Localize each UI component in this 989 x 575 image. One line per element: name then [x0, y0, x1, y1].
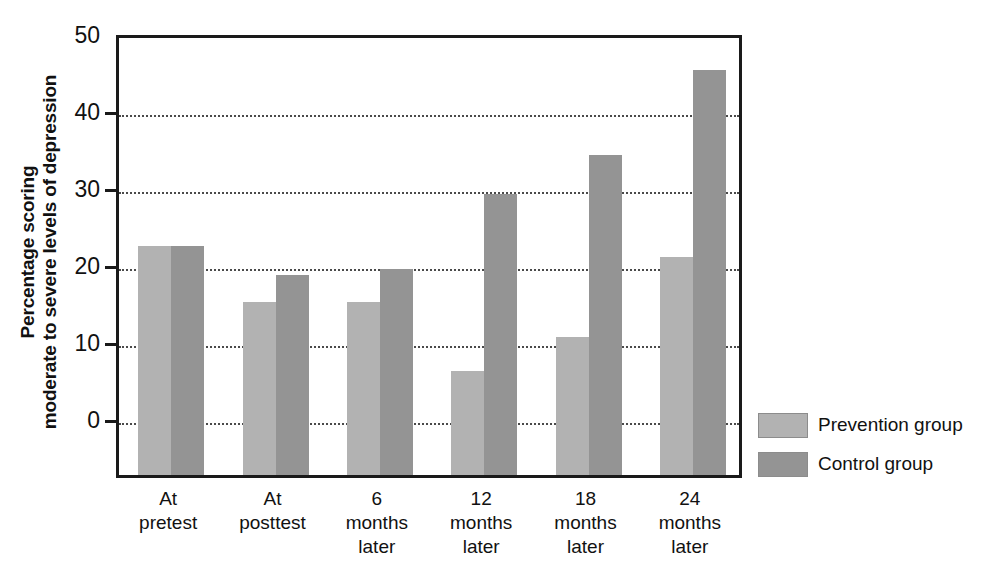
bar-control-3 [484, 194, 517, 475]
x-tick-label-1-line-1: posttest [220, 511, 324, 535]
y-tick-label-50: 50 [56, 22, 100, 49]
legend-label-prevention: Prevention group [818, 414, 963, 436]
bar-prevention-1 [243, 302, 276, 475]
x-tick-label-4-line-2: later [533, 535, 637, 559]
y-tick-mark-0 [105, 420, 116, 423]
y-tick-label-0: 0 [56, 407, 100, 434]
legend-label-control: Control group [818, 453, 933, 475]
x-tick-label-0-line-1: pretest [116, 511, 220, 535]
bar-control-5 [693, 70, 726, 475]
x-tick-label-2-line-2: later [325, 535, 429, 559]
x-tick-label-3-line-1: months [429, 511, 533, 535]
y-tick-label-30: 30 [56, 176, 100, 203]
x-tick-label-0-line-0: At [116, 487, 220, 511]
bar-prevention-2 [347, 302, 380, 475]
x-tick-label-2-line-0: 6 [325, 487, 429, 511]
bar-chart-figure: Percentage scoring moderate to severe le… [0, 0, 989, 575]
plot-area [116, 35, 742, 478]
chart-legend: Prevention groupControl group [758, 412, 986, 490]
x-tick-label-2-line-1: months [325, 511, 429, 535]
bar-control-4 [589, 155, 622, 475]
gridline-10 [119, 346, 739, 348]
y-tick-label-40: 40 [56, 99, 100, 126]
bar-prevention-5 [660, 257, 693, 475]
y-tick-label-20: 20 [56, 253, 100, 280]
x-tick-label-5-line-1: months [638, 511, 742, 535]
bar-control-2 [380, 269, 413, 475]
bar-control-0 [171, 246, 204, 475]
y-tick-mark-10 [105, 343, 116, 346]
legend-item-control[interactable]: Control group [758, 451, 986, 477]
x-tick-label-1: Atposttest [220, 487, 324, 535]
y-tick-mark-20 [105, 266, 116, 269]
x-tick-label-5-line-0: 24 [638, 487, 742, 511]
bar-prevention-3 [451, 371, 484, 475]
bar-prevention-0 [138, 246, 171, 475]
legend-item-prevention[interactable]: Prevention group [758, 412, 986, 438]
legend-swatch-prevention [758, 413, 808, 438]
bar-control-1 [276, 275, 309, 475]
x-axis-tick-labels: AtpretestAtposttest6monthslater12monthsl… [116, 487, 742, 573]
gridline-20 [119, 269, 739, 271]
gridline-40 [119, 115, 739, 117]
y-tick-label-10: 10 [56, 330, 100, 357]
x-tick-label-0: Atpretest [116, 487, 220, 535]
gridline-0 [119, 423, 739, 425]
y-tick-mark-40 [105, 112, 116, 115]
x-tick-label-1-line-0: At [220, 487, 324, 511]
plot-inner [119, 38, 739, 475]
x-tick-label-5-line-2: later [638, 535, 742, 559]
x-tick-label-5: 24monthslater [638, 487, 742, 558]
x-tick-label-4: 18monthslater [533, 487, 637, 558]
bar-prevention-4 [556, 337, 589, 475]
x-tick-label-3: 12monthslater [429, 487, 533, 558]
x-tick-label-4-line-0: 18 [533, 487, 637, 511]
y-tick-mark-30 [105, 189, 116, 192]
y-axis-ticks: 01020304050 [0, 0, 100, 500]
legend-swatch-control [758, 452, 808, 477]
x-tick-label-3-line-0: 12 [429, 487, 533, 511]
x-tick-label-4-line-1: months [533, 511, 637, 535]
x-tick-label-3-line-2: later [429, 535, 533, 559]
x-tick-label-2: 6monthslater [325, 487, 429, 558]
gridline-30 [119, 192, 739, 194]
